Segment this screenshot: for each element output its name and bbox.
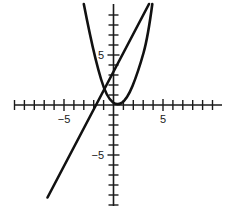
x-tick-label-neg5: −5 bbox=[58, 113, 71, 125]
x-tick-label-pos5: 5 bbox=[160, 113, 166, 125]
y-tick-label-neg5: −5 bbox=[91, 149, 104, 161]
graph-figure: −5 5 5 −5 bbox=[0, 0, 227, 209]
curves-group bbox=[48, 4, 153, 198]
y-tick-label-pos5: 5 bbox=[98, 49, 104, 61]
coordinate-plot: −5 5 5 −5 bbox=[0, 0, 227, 209]
